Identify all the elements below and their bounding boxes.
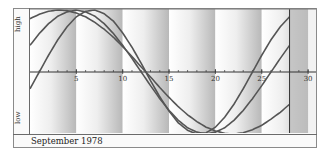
x-tick-label: 5 (74, 75, 78, 83)
day-band (30, 9, 76, 133)
y-label-low: low (14, 106, 30, 130)
day-band (76, 9, 122, 133)
y-label-high: high (14, 12, 30, 36)
x-tick-label: 10 (118, 75, 127, 83)
x-tick-label: 15 (165, 75, 174, 83)
x-tick-label: 20 (211, 75, 220, 83)
day-band (169, 9, 215, 133)
month-caption: September 1978 (31, 135, 103, 147)
biorhythm-chart: 51015202530 high low September 1978 (0, 0, 325, 159)
x-tick-label: 30 (304, 75, 313, 83)
